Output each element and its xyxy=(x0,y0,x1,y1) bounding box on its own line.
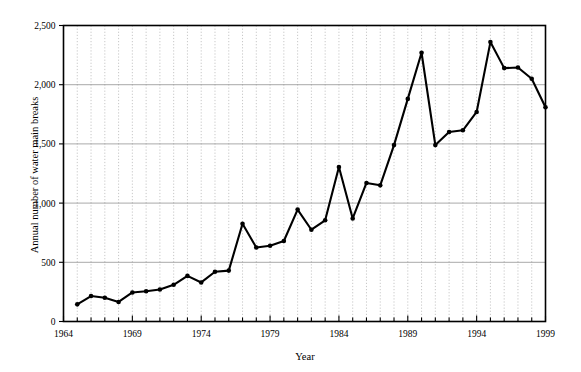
data-point xyxy=(419,50,424,55)
data-point xyxy=(213,269,218,274)
data-point xyxy=(433,143,438,148)
data-point xyxy=(378,183,383,188)
x-axis-title: Year xyxy=(295,351,315,362)
data-point xyxy=(103,296,108,301)
data-point xyxy=(474,110,479,115)
data-point xyxy=(543,105,548,110)
plot-frame xyxy=(64,26,546,322)
data-point xyxy=(268,243,273,248)
horizontal-gridlines xyxy=(64,85,546,263)
data-point xyxy=(392,143,397,148)
data-point xyxy=(199,280,204,285)
data-point xyxy=(364,181,369,186)
x-tick-label: 1964 xyxy=(54,329,73,339)
vertical-gridlines xyxy=(77,26,531,322)
data-point xyxy=(295,207,300,212)
x-tick-label: 1984 xyxy=(329,329,348,339)
axes-rect xyxy=(64,26,546,322)
line-chart-svg: 05001,0001,5002,0002,500 196419691974197… xyxy=(0,0,581,372)
data-series xyxy=(75,40,548,307)
data-point xyxy=(282,239,287,244)
data-point xyxy=(171,283,176,288)
y-tick-label: 2,000 xyxy=(34,80,56,90)
data-point xyxy=(488,40,493,45)
data-point xyxy=(130,290,135,295)
x-axis-ticks xyxy=(64,316,546,322)
data-point xyxy=(461,128,466,133)
x-axis-tick-labels: 19641969197419791984198919941999 xyxy=(54,329,555,339)
y-tick-label: 500 xyxy=(41,258,56,268)
x-tick-label: 1994 xyxy=(467,329,486,339)
data-point xyxy=(240,222,245,227)
x-tick-label: 1999 xyxy=(536,329,555,339)
data-point xyxy=(529,76,534,81)
x-tick-label: 1979 xyxy=(261,329,280,339)
data-point xyxy=(158,287,163,292)
data-point xyxy=(185,274,190,279)
y-tick-label: 0 xyxy=(51,317,56,327)
data-point xyxy=(116,300,121,305)
data-point xyxy=(350,216,355,221)
data-point xyxy=(447,130,452,135)
data-point xyxy=(89,294,94,299)
data-point xyxy=(502,66,507,71)
data-point xyxy=(144,289,149,294)
y-tick-label: 2,500 xyxy=(34,21,56,31)
chart-figure: 05001,0001,5002,0002,500 196419691974197… xyxy=(0,0,581,372)
data-point xyxy=(226,268,231,273)
data-point xyxy=(309,227,314,232)
data-point xyxy=(75,302,80,307)
data-point xyxy=(337,165,342,170)
data-point xyxy=(254,245,259,250)
y-axis-title: Annual number of water main breaks xyxy=(29,97,40,254)
data-point xyxy=(323,218,328,223)
x-tick-label: 1969 xyxy=(123,329,142,339)
data-point xyxy=(516,65,521,70)
x-tick-label: 1989 xyxy=(398,329,417,339)
data-point xyxy=(405,97,410,102)
x-tick-label: 1974 xyxy=(192,329,211,339)
